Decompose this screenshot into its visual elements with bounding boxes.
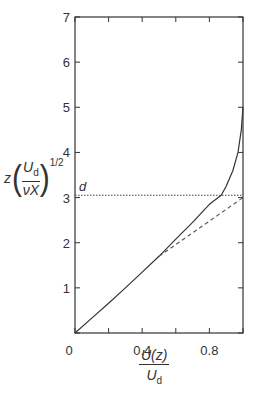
x-label-denominator: Ud: [146, 365, 162, 391]
y-num-sub: d: [33, 167, 39, 178]
plot-frame: [75, 17, 243, 333]
y-axis-label: z ( Ud νX ) 1/2: [4, 159, 64, 198]
x-axis-label: U(z) Ud: [139, 346, 169, 391]
y-tick-label: 5: [63, 100, 70, 115]
y-label-denominator: νX: [23, 182, 39, 198]
y-label-z: z: [4, 170, 11, 186]
series-solid-line: [75, 107, 243, 333]
y-tick-label: 2: [63, 236, 70, 251]
x-den-sub: d: [157, 375, 163, 386]
left-paren: (: [12, 161, 22, 196]
x-tick-label: 0.8: [200, 343, 218, 358]
chart-plot: 00.40.81234567: [0, 0, 257, 399]
y-tick-label: 7: [63, 10, 70, 25]
x-label-numerator: U(z): [139, 346, 169, 365]
y-label-exponent: 1/2: [50, 157, 64, 168]
x-tick-label: 0: [65, 343, 72, 358]
y-tick-label: 1: [63, 281, 70, 296]
y-label-numerator: Ud: [22, 159, 40, 182]
y-tick-label: 6: [63, 55, 70, 70]
y-tick-label: 3: [63, 191, 70, 206]
right-paren: ): [40, 161, 50, 196]
series-dashed-line: [159, 198, 243, 257]
y-num-text: U: [23, 159, 33, 175]
y-label-fraction: Ud νX: [22, 159, 40, 198]
d-annotation: d: [79, 179, 86, 194]
x-den-text: U: [146, 367, 156, 383]
